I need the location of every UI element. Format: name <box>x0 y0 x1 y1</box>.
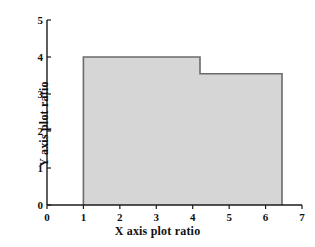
x-tick-label: 4 <box>190 212 196 223</box>
data-region <box>83 57 282 205</box>
y-tick-label: 5 <box>31 15 43 26</box>
x-tick-label: 7 <box>299 212 305 223</box>
x-tick-label: 0 <box>44 212 50 223</box>
step-area-fill <box>83 57 282 205</box>
x-tick-label: 3 <box>154 212 160 223</box>
x-tick-label: 6 <box>263 212 269 223</box>
x-axis-title: X axis plot ratio <box>0 224 315 239</box>
x-tick-label: 5 <box>226 212 232 223</box>
x-tick-label: 1 <box>81 212 87 223</box>
x-tick-label: 2 <box>117 212 123 223</box>
chart-container: 01234567 012345 X axis plot ratio Y axis… <box>0 0 315 247</box>
y-axis-title: Y axis plot ratio <box>37 81 52 166</box>
y-tick-label: 0 <box>31 200 43 211</box>
y-tick-label: 4 <box>31 52 43 63</box>
